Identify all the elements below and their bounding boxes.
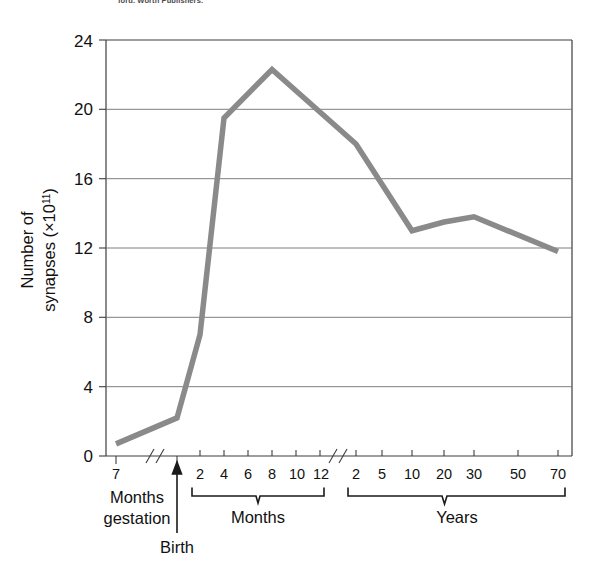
publisher-credit: ford. Worth Publishers. — [118, 0, 203, 4]
x-tick-label-year: 5 — [378, 466, 386, 482]
y-axis-title-line2-suffix: ) — [40, 188, 58, 194]
y-axis-title-line1: Number of — [18, 211, 36, 288]
x-tick-label-month: 2 — [196, 466, 204, 482]
x-axis-ticks-years — [356, 450, 558, 456]
x-tick-label-month: 12 — [313, 466, 329, 482]
y-tick-label: 4 — [84, 378, 93, 397]
synapse-development-figure: ford. Worth Publishers. — [0, 0, 599, 573]
y-axis-title-exponent: 11 — [41, 193, 52, 204]
x-tick-label-month: 4 — [220, 466, 228, 482]
y-tick-label: 8 — [84, 308, 93, 327]
y-tick-label: 16 — [74, 170, 93, 189]
gestation-label-line1: Months — [110, 488, 164, 506]
x-tick-label-year: 30 — [466, 466, 482, 482]
x-group-label-gestation: Months gestation — [104, 488, 171, 527]
months-group-label: Months — [231, 508, 285, 526]
y-axis-tick-labels: 0 4 8 12 16 20 24 — [74, 32, 93, 466]
x-group-brace-years: Years — [348, 488, 565, 526]
gestation-label-line2: gestation — [104, 509, 171, 527]
x-tick-label-month: 6 — [244, 466, 252, 482]
x-group-brace-months: Months — [192, 488, 324, 526]
x-tick-labels-months: 2 4 6 8 10 12 — [196, 466, 329, 482]
y-tick-label: 20 — [74, 100, 93, 119]
x-tick-label-month: 10 — [289, 466, 305, 482]
y-axis-title-line2-prefix: synapses (×10 — [40, 204, 58, 312]
x-tick-label-gestation-7: 7 — [112, 466, 120, 482]
birth-label: Birth — [160, 538, 194, 556]
y-axis-title: Number of synapses (×1011) — [18, 188, 58, 312]
x-tick-label-year: 70 — [550, 466, 566, 482]
chart-svg: 0 4 8 12 16 20 24 Number of synapses (×1… — [0, 0, 599, 573]
y-tick-label: 0 — [84, 447, 93, 466]
x-tick-labels-years: 2 5 10 20 30 50 70 — [352, 466, 566, 482]
x-tick-labels-gestation: 7 — [112, 466, 120, 482]
y-axis-title-line2: synapses (×1011) — [40, 188, 58, 312]
x-tick-label-year: 2 — [352, 466, 360, 482]
x-axis-ticks-months — [177, 450, 320, 464]
y-tick-label: 24 — [74, 32, 93, 51]
x-tick-label-year: 20 — [436, 466, 452, 482]
gridlines — [106, 109, 572, 386]
x-tick-label-month: 8 — [268, 466, 276, 482]
data-series — [116, 70, 558, 444]
years-group-label: Years — [436, 508, 478, 526]
x-tick-label-year: 50 — [510, 466, 526, 482]
x-tick-label-year: 10 — [404, 466, 420, 482]
y-tick-label: 12 — [74, 239, 93, 258]
y-axis-ticks — [99, 40, 106, 456]
